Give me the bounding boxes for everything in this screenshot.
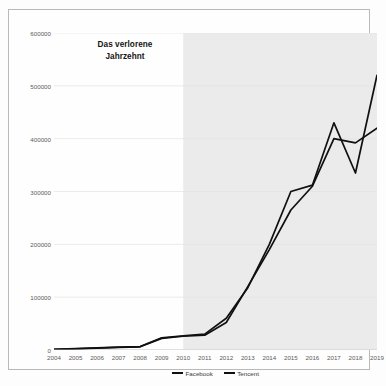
x-tick-label: 2016 xyxy=(306,354,320,361)
x-tick-label: 2006 xyxy=(90,354,104,361)
x-tick-label: 2007 xyxy=(112,354,126,361)
plot-svg xyxy=(54,33,377,350)
x-tick-label: 2013 xyxy=(241,354,255,361)
x-tick-label: 2012 xyxy=(219,354,233,361)
x-tick-label: 2005 xyxy=(69,354,83,361)
x-tick-label: 2015 xyxy=(284,354,298,361)
x-axis-tick-labels: 2004200520062007200820092010201120122013… xyxy=(54,354,377,366)
y-tick-label: 600000 xyxy=(30,30,51,37)
chart-legend: FacebookTencent xyxy=(54,367,377,379)
y-axis-tick-labels: 0100000200000300000400000500000600000 xyxy=(17,33,51,350)
legend-swatch-icon xyxy=(224,372,235,374)
x-tick-label: 2011 xyxy=(198,354,211,361)
legend-swatch-icon xyxy=(172,372,183,374)
x-tick-label: 2017 xyxy=(327,354,341,361)
y-tick-label: 200000 xyxy=(30,241,51,248)
x-tick-label: 2010 xyxy=(176,354,190,361)
x-tick-label: 2004 xyxy=(47,354,61,361)
x-tick-label: 2008 xyxy=(133,354,147,361)
y-tick-label: 400000 xyxy=(30,135,51,142)
y-tick-label: 300000 xyxy=(30,188,51,195)
y-tick-label: 0 xyxy=(48,347,51,354)
legend-label: Facebook xyxy=(186,370,213,377)
x-tick-label: 2019 xyxy=(370,354,384,361)
plot-area xyxy=(54,33,377,350)
y-tick-label: 100000 xyxy=(30,294,51,301)
legend-entry-tencent[interactable]: Tencent xyxy=(224,370,259,377)
chart-figure: Das verlorene Jahrzehnt Das Jahrzehnt de… xyxy=(0,0,386,386)
y-tick-label: 500000 xyxy=(30,82,51,89)
chart-frame: Das verlorene Jahrzehnt Das Jahrzehnt de… xyxy=(8,9,370,370)
x-tick-label: 2018 xyxy=(349,354,363,361)
legend-entry-facebook[interactable]: Facebook xyxy=(172,370,213,377)
legend-label: Tencent xyxy=(237,370,259,377)
x-tick-label: 2014 xyxy=(262,354,276,361)
x-tick-label: 2009 xyxy=(155,354,169,361)
